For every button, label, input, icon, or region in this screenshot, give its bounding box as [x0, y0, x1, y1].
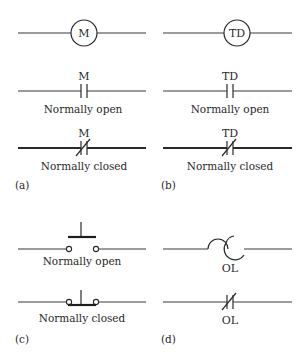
panel-label: (d)	[161, 333, 176, 345]
contact-tag: M	[78, 70, 89, 83]
panel-b: TD TD Normally open TD Normally closed (…	[161, 20, 292, 191]
panel-label: (a)	[15, 179, 29, 191]
contact-tag: TD	[222, 70, 238, 83]
overload-heater-symbol: OL	[163, 236, 292, 275]
ladder-symbols-diagram: M M Normally open M Normally closed (a)	[0, 0, 306, 360]
normally-closed-contact-symbol: M Normally closed	[18, 127, 146, 172]
overload-contact-symbol: OL	[163, 293, 292, 327]
pushbutton-normally-closed-symbol: Normally closed	[18, 290, 146, 324]
terminal-icon	[66, 299, 71, 304]
normally-closed-contact-symbol: TD Normally closed	[163, 127, 292, 172]
panel-a: M M Normally open M Normally closed (a)	[15, 20, 146, 191]
coil-label: M	[78, 27, 89, 40]
panel-label: (c)	[15, 333, 29, 345]
panel-c: Normally open Normally closed (c)	[15, 222, 146, 345]
motor-coil-symbol: M	[18, 20, 146, 46]
contact-caption: Normally closed	[41, 160, 128, 172]
contact-tag: TD	[222, 127, 238, 140]
normally-open-contact-symbol: M Normally open	[18, 70, 146, 115]
pushbutton-normally-open-symbol: Normally open	[18, 222, 146, 267]
time-delay-coil-symbol: TD	[163, 20, 292, 46]
pushbutton-caption: Normally open	[43, 255, 122, 267]
contact-tag: M	[78, 127, 89, 140]
terminal-icon	[93, 299, 98, 304]
coil-label: TD	[229, 27, 245, 40]
terminal-icon	[66, 246, 71, 251]
overload-tag: OL	[222, 262, 239, 275]
heater-arc-icon	[226, 236, 234, 243]
panel-label: (b)	[161, 179, 176, 191]
panel-d: OL OL (d)	[161, 236, 292, 345]
overload-tag: OL	[222, 314, 239, 327]
terminal-icon	[93, 246, 98, 251]
contact-caption: Normally open	[44, 103, 123, 115]
contact-caption: Normally open	[191, 103, 270, 115]
normally-open-contact-symbol: TD Normally open	[163, 70, 292, 115]
contact-caption: Normally closed	[187, 160, 274, 172]
pushbutton-caption: Normally closed	[39, 312, 126, 324]
